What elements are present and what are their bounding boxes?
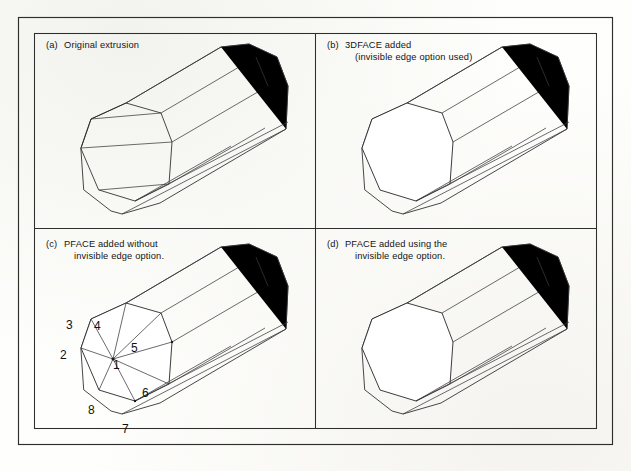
panel-b-caption-line-1: 3DFACE added (345, 40, 411, 50)
vertex-number-2: 2 (60, 348, 67, 362)
panel-c-caption-line-1: PFACE added without (64, 239, 158, 249)
panel-b-caption-line-2: (invisible edge option used) (355, 52, 472, 62)
vertex-number-8: 8 (88, 403, 95, 417)
panel-b-prism (362, 44, 569, 214)
panel-b-end-cap (362, 103, 453, 201)
vertex-number-3: 3 (66, 318, 73, 332)
panel-d: (d) PFACE added using the invisible edge… (327, 239, 569, 414)
panel-d-prism (362, 244, 569, 414)
vertex-number-5: 5 (131, 341, 138, 355)
panel-c: (c) PFACE added without invisible edge o… (46, 239, 288, 436)
panel-a-prism (81, 44, 288, 214)
vertex-dot-5 (171, 341, 173, 343)
panel-d-caption-line-2: invisible edge option. (355, 251, 445, 261)
vertex-number-4: 4 (94, 319, 101, 333)
vertex-number-1: 1 (113, 358, 120, 372)
vertex-number-6: 6 (142, 386, 149, 400)
panel-b: (b) 3DFACE added (invisible edge option … (327, 40, 569, 214)
panel-c-prism (81, 244, 288, 414)
panel-a: (a) Original extrusion (46, 40, 288, 214)
panel-c-end-cap (81, 303, 172, 401)
vertex-number-7: 7 (122, 422, 129, 436)
panel-c-caption-line-2: invisible edge option. (74, 251, 164, 261)
panel-b-marker: (b) (327, 40, 339, 50)
vertex-dot-7 (134, 400, 136, 402)
figure-root: (a) Original extrusion (0, 0, 631, 471)
panel-d-marker: (d) (327, 239, 339, 249)
panel-c-marker: (c) (46, 239, 57, 249)
panel-a-marker: (a) (46, 40, 58, 50)
figure-sheet: (a) Original extrusion (0, 0, 631, 471)
panel-d-caption-line-1: PFACE added using the (345, 239, 447, 249)
panel-d-end-cap (362, 303, 453, 401)
panel-a-caption-line-1: Original extrusion (64, 40, 139, 50)
